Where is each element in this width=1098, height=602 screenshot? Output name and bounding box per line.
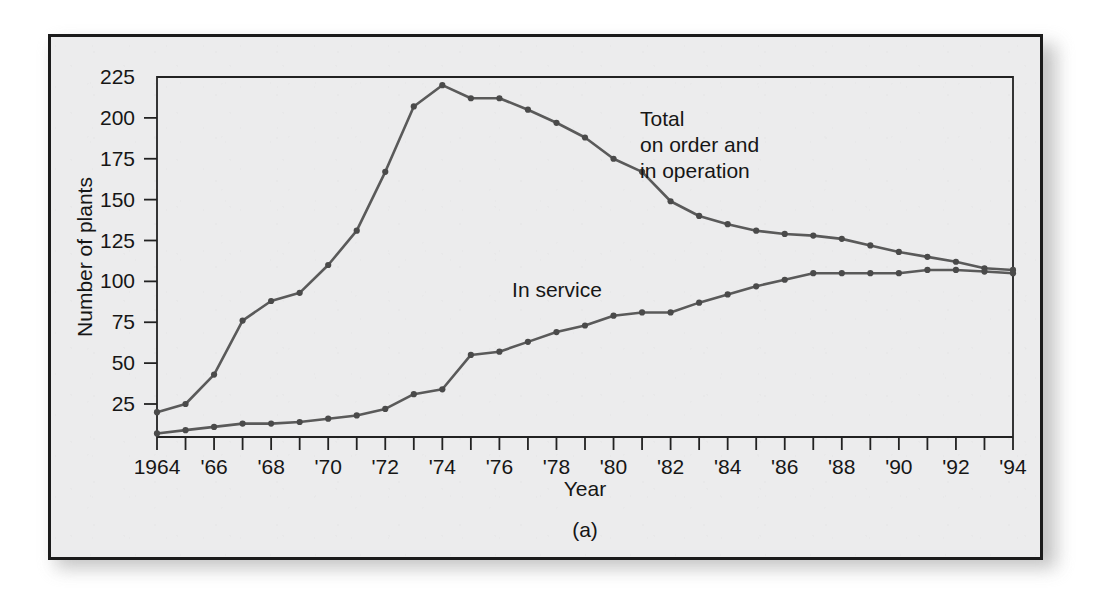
- data-point: [468, 352, 474, 358]
- data-point: [468, 95, 474, 101]
- annotation-line: on order and: [640, 133, 759, 156]
- data-point: [924, 254, 930, 260]
- data-point: [496, 349, 502, 355]
- annotation-in-service: In service: [512, 278, 602, 301]
- x-tick-label: '82: [657, 455, 684, 478]
- data-point: [240, 421, 246, 427]
- data-point: [668, 309, 674, 315]
- data-point: [610, 313, 616, 319]
- x-tick-label: '92: [942, 455, 969, 478]
- data-point: [953, 259, 959, 265]
- x-tick-label: '94: [999, 455, 1027, 478]
- data-point: [297, 419, 303, 425]
- data-point: [553, 329, 559, 335]
- data-point: [382, 169, 388, 175]
- data-point: [1010, 270, 1016, 276]
- panel-caption: (a): [572, 518, 598, 541]
- y-axis-title: Number of plants: [73, 177, 96, 337]
- annotation-line: in operation: [640, 159, 750, 182]
- data-point: [496, 95, 502, 101]
- data-point: [439, 386, 445, 392]
- data-point: [867, 242, 873, 248]
- data-point: [839, 236, 845, 242]
- data-point: [782, 231, 788, 237]
- data-point: [896, 249, 902, 255]
- data-point: [839, 270, 845, 276]
- x-tick-label: '76: [486, 455, 513, 478]
- x-tick-label: '90: [885, 455, 912, 478]
- data-point: [182, 401, 188, 407]
- data-point: [268, 298, 274, 304]
- data-point: [782, 277, 788, 283]
- data-point: [211, 371, 217, 377]
- data-point: [582, 322, 588, 328]
- data-point: [211, 424, 217, 430]
- x-tick-label: '80: [600, 455, 627, 478]
- x-tick-label: '74: [429, 455, 457, 478]
- data-point: [240, 318, 246, 324]
- data-point: [439, 82, 445, 88]
- series-line-0: [157, 85, 1013, 412]
- chart-plot: 2550751001251501752002251964'66'68'70'72…: [0, 0, 1098, 602]
- y-tick-label: 125: [100, 229, 135, 252]
- data-point: [525, 107, 531, 113]
- y-tick-label: 100: [100, 269, 135, 292]
- x-tick-label: '78: [543, 455, 570, 478]
- data-point: [696, 300, 702, 306]
- data-point: [325, 262, 331, 268]
- data-point: [981, 268, 987, 274]
- x-tick-label: '86: [771, 455, 798, 478]
- data-point: [553, 120, 559, 126]
- data-point: [525, 339, 531, 345]
- data-point: [154, 409, 160, 415]
- data-point: [411, 391, 417, 397]
- y-tick-label: 200: [100, 106, 135, 129]
- y-tick-label: 225: [100, 65, 135, 88]
- plot-frame: [157, 77, 1013, 437]
- data-point: [182, 427, 188, 433]
- data-point: [696, 213, 702, 219]
- data-point: [582, 134, 588, 140]
- data-point: [725, 291, 731, 297]
- y-tick-label: 150: [100, 188, 135, 211]
- data-point: [411, 103, 417, 109]
- data-point: [924, 267, 930, 273]
- x-tick-label: '68: [257, 455, 284, 478]
- x-tick-label: '70: [315, 455, 342, 478]
- data-point: [268, 421, 274, 427]
- y-tick-label: 50: [112, 351, 135, 374]
- data-point: [325, 416, 331, 422]
- y-tick-label: 75: [112, 310, 135, 333]
- data-point: [154, 430, 160, 436]
- data-point: [610, 156, 616, 162]
- data-point: [639, 309, 645, 315]
- data-point: [867, 270, 873, 276]
- data-point: [810, 270, 816, 276]
- data-point: [896, 270, 902, 276]
- annotation-total-on-order-and-in-operation: Totalon order andin operation: [640, 107, 759, 182]
- y-tick-label: 175: [100, 147, 135, 170]
- x-tick-label: '88: [828, 455, 855, 478]
- x-tick-label: 1964: [134, 455, 181, 478]
- data-point: [725, 221, 731, 227]
- data-point: [668, 198, 674, 204]
- x-tick-label: '66: [200, 455, 227, 478]
- data-point: [753, 283, 759, 289]
- x-axis-title: Year: [564, 477, 606, 500]
- data-point: [753, 228, 759, 234]
- data-point: [297, 290, 303, 296]
- data-point: [953, 267, 959, 273]
- data-point: [810, 232, 816, 238]
- y-tick-label: 25: [112, 392, 135, 415]
- data-point: [382, 406, 388, 412]
- data-point: [354, 228, 360, 234]
- x-tick-label: '84: [714, 455, 742, 478]
- x-tick-label: '72: [372, 455, 399, 478]
- annotation-line: Total: [640, 107, 684, 130]
- data-point: [354, 412, 360, 418]
